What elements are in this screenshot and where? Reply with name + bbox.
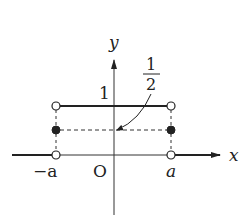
step-function-diagram: y x 1 1 2 −a O a	[0, 0, 250, 223]
value-label-one: 1	[99, 83, 110, 103]
open-point-neg-a-one	[52, 102, 60, 110]
pointer-arrow	[117, 94, 151, 130]
fraction-denominator: 2	[146, 75, 156, 94]
y-axis-label: y	[108, 32, 119, 52]
fraction-half-label: 1 2	[143, 55, 160, 94]
open-point-neg-a-zero	[52, 151, 60, 159]
tick-label-neg-a: −a	[33, 161, 57, 181]
origin-label: O	[93, 161, 107, 181]
fraction-numerator: 1	[146, 55, 156, 74]
x-axis-label: x	[229, 145, 239, 165]
filled-point-neg-a-half	[52, 126, 60, 134]
tick-label-pos-a: a	[166, 161, 176, 181]
filled-point-a-half	[167, 126, 175, 134]
open-point-a-zero	[167, 151, 175, 159]
open-point-a-one	[167, 102, 175, 110]
